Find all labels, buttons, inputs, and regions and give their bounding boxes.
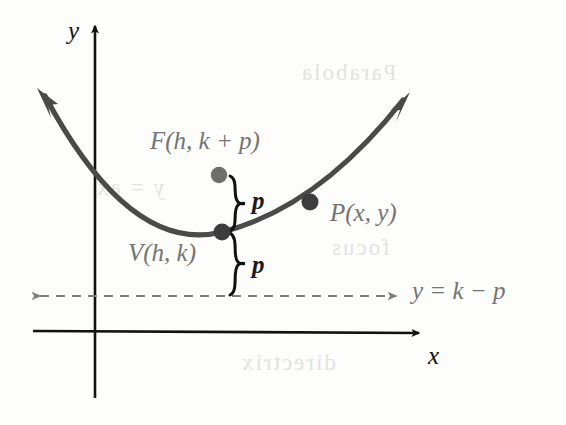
focus-dot — [211, 167, 227, 183]
y-axis-label: y — [68, 18, 79, 43]
x-axis — [33, 331, 419, 333]
directrix-label: y = k − p — [412, 278, 505, 303]
parabola-right-arrowhead — [391, 92, 410, 122]
brace-upper-label: p — [252, 188, 265, 213]
x-axis-label: x — [428, 343, 439, 368]
diagram-canvas — [0, 0, 566, 425]
parabola-diagram: Parabola y = ax directrix focus — [0, 0, 566, 425]
vertex-dot — [214, 224, 231, 241]
point-p-label: P(x, y) — [330, 200, 397, 225]
vertex-label: V(h, k) — [128, 240, 196, 265]
focus-label: F(h, k + p) — [150, 128, 260, 153]
brace-upper — [230, 176, 245, 231]
point-p-dot — [302, 194, 319, 211]
brace-lower — [230, 233, 245, 295]
brace-lower-label: p — [252, 252, 265, 277]
